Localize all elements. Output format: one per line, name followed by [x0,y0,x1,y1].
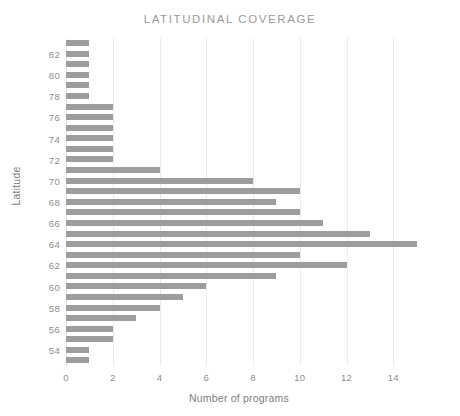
bar-row [66,334,412,345]
bar [66,241,417,247]
y-tick-label: 62 [24,260,60,271]
bar [66,135,113,141]
x-tick-label: 14 [388,372,399,383]
bar-row [66,260,412,271]
bar-row [66,218,412,229]
bar-row [66,345,412,356]
bar [66,347,89,353]
bar-row [66,281,412,292]
bar-row [66,49,412,60]
bar [66,156,113,162]
bar-row [66,228,412,239]
y-tick-label: 54 [24,345,60,356]
y-tick-label: 58 [24,302,60,313]
bar-row [66,91,412,102]
bar [66,178,253,184]
y-tick-label: 68 [24,197,60,208]
bar-row [66,250,412,261]
bar [66,188,300,194]
x-tick-label: 0 [63,372,69,383]
y-tick-label: 56 [24,323,60,334]
bar-row [66,186,412,197]
bar [66,125,113,131]
bar-row [66,123,412,134]
x-axis-label: Number of programs [66,392,412,404]
bar [66,252,300,258]
bar-row [66,197,412,208]
x-tick-label: 6 [203,372,209,383]
plot-area [66,38,412,366]
bar-row [66,133,412,144]
x-tick-label: 4 [157,372,163,383]
bar-row [66,165,412,176]
bar [66,357,89,363]
bar-row [66,70,412,81]
bar [66,305,160,311]
bar-row [66,176,412,187]
y-tick-label: 60 [24,281,60,292]
bar-row [66,302,412,313]
bar [66,51,89,57]
y-tick-label: 72 [24,154,60,165]
x-tick-label: 10 [294,372,305,383]
bar [66,231,370,237]
bar-row [66,59,412,70]
bar-row [66,154,412,165]
y-tick-label: 70 [24,175,60,186]
bar [66,220,323,226]
y-tick-label: 66 [24,218,60,229]
bar [66,283,206,289]
bar [66,273,276,279]
bar [66,104,113,110]
chart-title: LATITUDINAL COVERAGE [0,13,460,25]
x-tick-label: 8 [250,372,256,383]
bar-row [66,239,412,250]
bar [66,40,89,46]
bar [66,93,89,99]
y-axis-ticks: 545658606264666870727476788082 [20,38,60,366]
bar [66,167,160,173]
bar-series [66,38,412,366]
y-tick-label: 76 [24,112,60,123]
bar-row [66,355,412,366]
y-tick-label: 64 [24,239,60,250]
bar-row [66,292,412,303]
y-tick-label: 82 [24,48,60,59]
y-tick-label: 74 [24,133,60,144]
bar [66,82,89,88]
bar [66,262,347,268]
y-tick-label: 78 [24,91,60,102]
bar [66,61,89,67]
bar-row [66,313,412,324]
chart-container: LATITUDINAL COVERAGE 5456586062646668707… [0,0,460,416]
bar [66,294,183,300]
bar [66,209,300,215]
bar [66,146,113,152]
bar [66,199,276,205]
bar-row [66,144,412,155]
bar [66,72,89,78]
bar-row [66,271,412,282]
bar-row [66,207,412,218]
x-axis-ticks: 02468101214 [66,372,412,388]
bar [66,114,113,120]
bar-row [66,324,412,335]
x-tick-label: 2 [110,372,116,383]
x-tick-label: 12 [341,372,352,383]
bar-row [66,80,412,91]
bar [66,336,113,342]
bar-row [66,38,412,49]
bar-row [66,112,412,123]
y-tick-label: 80 [24,70,60,81]
y-axis-label: Latitude [10,146,22,226]
bar [66,326,113,332]
bar-row [66,101,412,112]
bar [66,315,136,321]
